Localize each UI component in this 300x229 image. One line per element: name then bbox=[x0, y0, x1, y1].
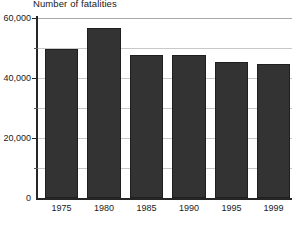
y-axis-labels: 60,000 40,000 20,000 0 bbox=[0, 0, 31, 229]
y-axis-tick-20000 bbox=[32, 138, 38, 139]
bar-chart: Number of fatalities 60,000 40,000 20,00… bbox=[0, 0, 300, 229]
plot-area bbox=[38, 18, 292, 198]
y-axis-tick-30000 bbox=[34, 108, 38, 109]
y-axis-tick-label: 0 bbox=[0, 193, 31, 203]
y-axis-tick-50000 bbox=[34, 48, 38, 49]
y-axis-tick-label: 40,000 bbox=[0, 73, 31, 83]
x-axis-tick-label-1995: 1995 bbox=[215, 203, 248, 214]
y-axis-tick-10000 bbox=[34, 168, 38, 169]
y-axis-tick-40000 bbox=[32, 78, 38, 79]
y-axis-tick-label: 60,000 bbox=[0, 13, 31, 23]
bar-1995[interactable] bbox=[215, 62, 248, 198]
chart-title: Number of fatalities bbox=[33, 0, 117, 9]
y-axis-tick-60000 bbox=[32, 18, 38, 19]
x-axis-line bbox=[36, 198, 292, 200]
x-axis-tick-label-1975: 1975 bbox=[45, 203, 78, 214]
x-axis-tick-label-1985: 1985 bbox=[130, 203, 163, 214]
bar-1975[interactable] bbox=[45, 49, 78, 198]
bar-1985[interactable] bbox=[130, 55, 163, 198]
gridline-60000 bbox=[38, 18, 292, 19]
bar-1999[interactable] bbox=[257, 64, 290, 198]
x-axis-tick-label-1980: 1980 bbox=[87, 203, 121, 214]
x-axis-tick-label-1990: 1990 bbox=[172, 203, 206, 214]
x-axis-tick-label-1999: 1999 bbox=[257, 203, 290, 214]
y-axis-tick-label: 20,000 bbox=[0, 133, 31, 143]
bar-1980[interactable] bbox=[87, 28, 121, 198]
bar-1990[interactable] bbox=[172, 55, 206, 198]
